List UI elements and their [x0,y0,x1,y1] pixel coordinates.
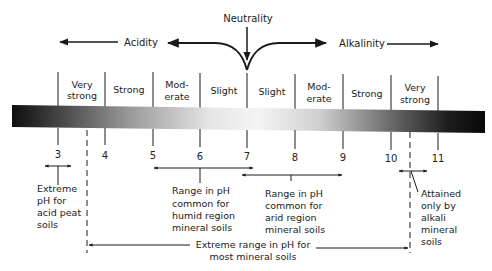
humid-region-range: Range in pH common for humid region mine… [154,168,253,233]
zone-acid-strong: Strong [113,84,144,95]
svg-text:Range in pH: Range in pH [172,185,230,196]
svg-text:mineral: mineral [421,224,457,235]
svg-text:most mineral soils: most mineral soils [210,251,297,262]
extreme-range: Extreme range in pH for most mineral soi… [89,239,408,262]
zone-alk-moderate-l2: erate [306,93,331,104]
header: Neutrality Acidity Alkalinity [60,13,438,70]
svg-text:Extreme: Extreme [37,183,77,194]
alkali-range: Attained only by alkali mineral soils [399,171,461,247]
svg-text:humid region: humid region [172,210,235,221]
svg-text:mineral soils: mineral soils [172,222,232,233]
tick-5: 5 [150,150,156,161]
alkalinity-label: Alkalinity [339,38,385,49]
svg-text:common for: common for [265,200,323,211]
tick-4: 4 [102,150,108,161]
tick-numbers: 3 4 5 6 7 8 9 10 11 [55,149,445,164]
tick-11: 11 [432,153,445,164]
acidity-curve-arrow-icon [168,43,247,70]
tick-3: 3 [55,149,61,160]
ph-gradient-bar [12,105,485,133]
zone-alk-strong: Strong [351,88,382,99]
tick-9: 9 [340,152,346,163]
zone-acid-very-strong-l1: Very [71,79,93,90]
zone-alk-very-strong-l2: strong [400,94,430,105]
zone-acid-very-strong-l2: strong [67,90,97,101]
svg-text:alkali: alkali [421,212,446,223]
zone-acid-moderate-l2: erate [164,91,189,102]
svg-text:arid region: arid region [265,212,316,223]
svg-text:Extreme range in pH for: Extreme range in pH for [196,239,311,250]
ph-scale-diagram: Neutrality Acidity Alkalinity Very stron… [0,0,492,271]
zone-alk-moderate-l1: Mod- [307,81,330,92]
zone-acid-slight: Slight [210,85,237,96]
svg-text:acid peat: acid peat [37,207,81,218]
zone-alk-slight: Slight [258,86,285,97]
svg-text:Range in pH: Range in pH [265,188,323,199]
zone-labels: Very strong Strong Mod- erate Slight Sli… [67,79,430,105]
arid-region-range: Range in pH common for arid region miner… [242,175,342,235]
svg-text:soils: soils [37,219,58,230]
svg-text:mineral soils: mineral soils [265,224,325,235]
tick-6: 6 [197,151,203,162]
zone-acid-moderate-l1: Mod- [165,79,188,90]
zone-alk-very-strong-l1: Very [404,82,426,93]
acidity-label: Acidity [124,37,158,48]
svg-text:Attained: Attained [421,188,461,199]
tick-8: 8 [292,152,298,163]
svg-text:soils: soils [421,236,442,247]
svg-text:common for: common for [172,198,230,209]
neutrality-label: Neutrality [223,13,273,24]
svg-text:only by: only by [421,200,456,211]
tick-7: 7 [244,151,250,162]
svg-text:pH for: pH for [37,195,66,206]
tick-10: 10 [385,153,398,164]
alkalinity-curve-arrow-icon [247,43,326,70]
acid-peat-range: Extreme pH for acid peat soils [37,166,81,230]
